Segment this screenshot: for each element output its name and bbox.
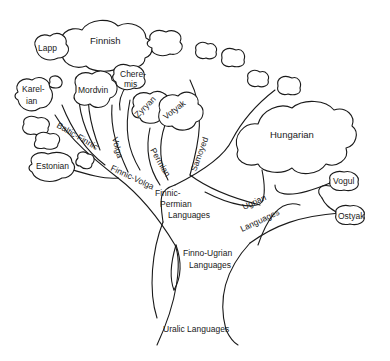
leaf-clouds: [15, 20, 364, 224]
label-volga: Volga: [110, 136, 125, 159]
label-lapp: Lapp: [38, 43, 57, 53]
label-permian: Permian: [148, 146, 173, 179]
label-uralic: Uralic Languages: [163, 324, 229, 334]
cloud-samoyed-2: [196, 42, 217, 58]
label-finno-ugrian-1: Finno-Ugrian: [183, 248, 232, 258]
label-karelian-2: ian: [26, 96, 38, 106]
label-ostyak: Ostyak: [338, 211, 365, 221]
cloud-small-left-3: [49, 76, 62, 88]
label-finnic-permian-1: Finnic-: [155, 188, 181, 198]
cloud-samoyed-1: [147, 30, 182, 55]
label-finnish: Finnish: [90, 35, 121, 46]
label-estonian: Estonian: [36, 161, 69, 171]
label-finnic-permian-2: Permian: [160, 199, 192, 209]
cloud-samoyed-4: [248, 70, 269, 86]
label-mordvin: Mordvin: [78, 85, 109, 95]
labels: Finnish Lapp Karel- ian Estonian Mordvin…: [22, 35, 365, 334]
label-samoyed: Samoyed: [188, 135, 210, 172]
tree-svg: Finnish Lapp Karel- ian Estonian Mordvin…: [0, 0, 390, 361]
label-cheremis-1: Chere-: [120, 69, 146, 79]
label-karelian-1: Karel-: [22, 84, 45, 94]
label-finnic-permian-3: Languages: [168, 210, 210, 220]
label-cheremis-2: mis: [124, 79, 137, 89]
cloud-small-left-2: [34, 132, 59, 149]
label-baltic-finnic: Baltic-Finnic: [55, 120, 101, 152]
label-ugrian-1: Ugrian: [241, 192, 268, 212]
label-hungarian: Hungarian: [270, 129, 314, 140]
label-finno-ugrian-2: Languages: [189, 260, 231, 270]
cloud-samoyed-3: [222, 48, 245, 66]
label-vogul: Vogul: [333, 176, 354, 186]
uralic-tree-diagram: Finnish Lapp Karel- ian Estonian Mordvin…: [0, 0, 390, 361]
ugrian-branches: [275, 183, 336, 212]
cloud-samoyed-5: [278, 76, 301, 94]
cloud-small-estonian: [76, 152, 94, 169]
